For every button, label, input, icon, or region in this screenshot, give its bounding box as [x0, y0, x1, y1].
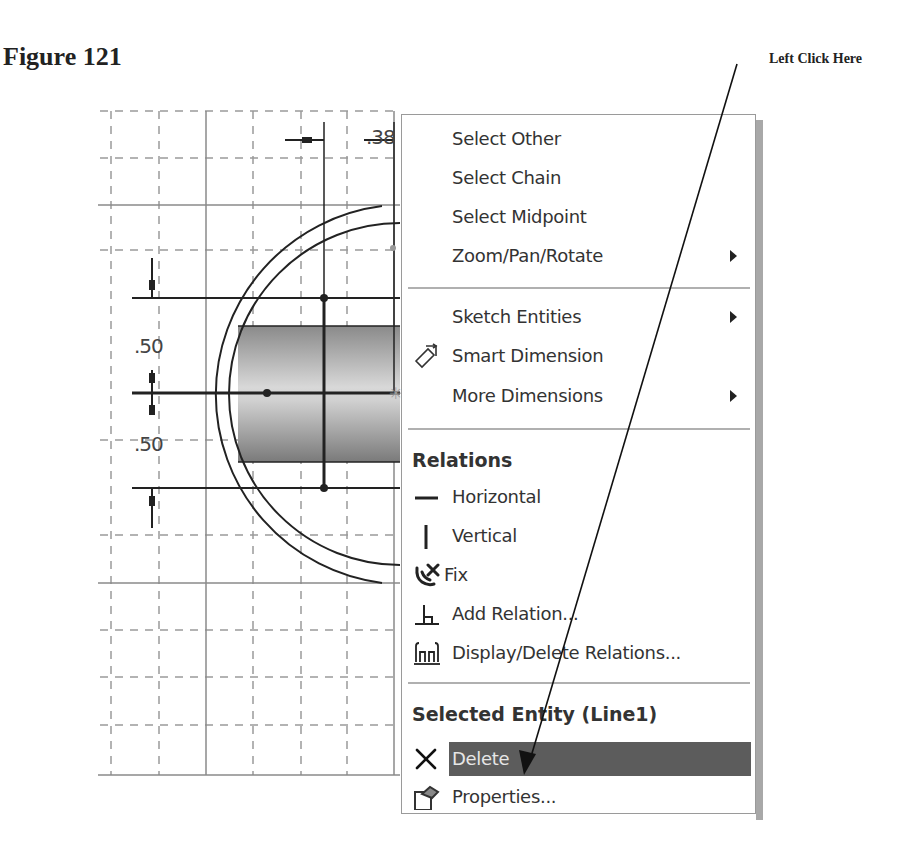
menu-item-fix[interactable]: Fix [402, 557, 755, 593]
fix-relation-icon [412, 562, 440, 588]
horizontal-relation-icon [412, 484, 440, 510]
menu-item-label: Display/Delete Relations... [452, 642, 681, 663]
menu-section-header-selected-entity: Selected Entity (Line1) [412, 703, 657, 725]
submenu-arrow-icon [730, 250, 737, 262]
menu-item-smart-dimension[interactable]: Smart Dimension [402, 338, 755, 374]
menu-item-label: Select Other [452, 128, 561, 149]
menu-item-label: Zoom/Pan/Rotate [452, 245, 603, 266]
menu-item-select-chain[interactable]: Select Chain [402, 160, 755, 196]
menu-item-sketch-entities[interactable]: Sketch Entities [402, 299, 755, 335]
dimension-label-vertical-upper[interactable]: .50 [134, 334, 163, 358]
menu-item-properties[interactable]: Properties... [402, 779, 755, 813]
menu-item-label: Smart Dimension [452, 345, 603, 366]
menu-item-add-relation[interactable]: Add Relation... [402, 596, 755, 632]
menu-item-label: Properties... [452, 786, 556, 807]
menu-item-label: Select Midpoint [452, 206, 587, 227]
vertical-relation-icon [412, 523, 440, 549]
menu-item-select-midpoint[interactable]: Select Midpoint [402, 199, 755, 235]
menu-item-label: Horizontal [452, 486, 541, 507]
dimension-label-horizontal[interactable]: .38 [366, 125, 395, 149]
menu-separator [408, 287, 750, 289]
menu-item-more-dimensions[interactable]: More Dimensions [402, 378, 755, 414]
menu-item-display-delete-relations[interactable]: Display/Delete Relations... [402, 635, 755, 671]
menu-item-label: Fix [444, 564, 468, 585]
menu-item-horizontal[interactable]: Horizontal [402, 479, 755, 515]
menu-item-label: Sketch Entities [452, 306, 581, 327]
menu-item-label: Select Chain [452, 167, 561, 188]
add-relation-icon [412, 601, 440, 627]
delete-icon [412, 746, 440, 772]
menu-item-label: More Dimensions [452, 385, 603, 406]
menu-item-delete[interactable]: Delete [402, 741, 755, 777]
smart-dimension-icon [412, 343, 440, 369]
menu-item-label: Add Relation... [452, 603, 579, 624]
display-delete-relations-icon [412, 640, 440, 666]
menu-item-label: Delete [452, 748, 509, 769]
submenu-arrow-icon [730, 390, 737, 402]
properties-icon [412, 784, 440, 810]
menu-item-label: Vertical [452, 525, 517, 546]
context-menu: Select Other Select Chain Select Midpoin… [401, 114, 756, 814]
submenu-arrow-icon [730, 311, 737, 323]
menu-separator [408, 428, 750, 430]
sketch-lines [132, 122, 400, 528]
menu-item-zoom-pan-rotate[interactable]: Zoom/Pan/Rotate [402, 238, 755, 274]
menu-separator [408, 682, 750, 684]
menu-item-select-other[interactable]: Select Other [402, 121, 755, 157]
dimension-label-vertical-lower[interactable]: .50 [134, 432, 163, 456]
menu-shadow [756, 120, 763, 820]
menu-section-header-relations: Relations [412, 449, 512, 471]
menu-item-vertical[interactable]: Vertical [402, 518, 755, 554]
